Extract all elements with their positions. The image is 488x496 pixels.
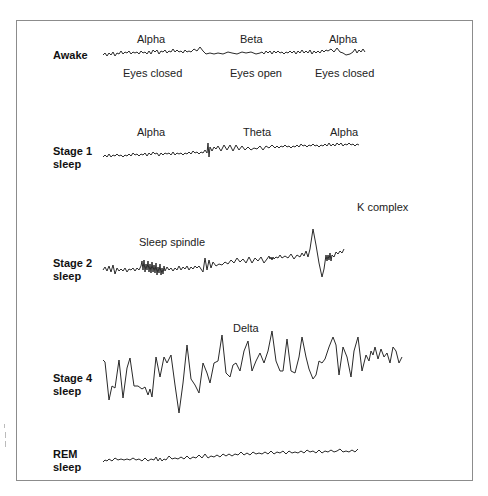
waveform-rem bbox=[103, 449, 358, 462]
waveform-awake bbox=[103, 47, 365, 56]
eeg-waveforms bbox=[0, 0, 488, 496]
waveform-stage2 bbox=[103, 229, 344, 277]
waveform-stage1 bbox=[103, 143, 359, 157]
waveform-stage4 bbox=[103, 331, 402, 413]
